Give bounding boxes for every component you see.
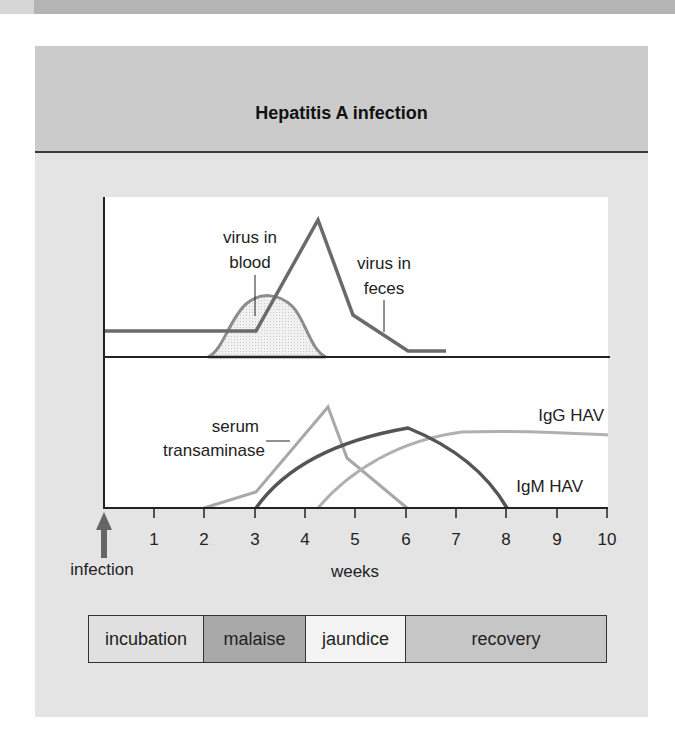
- svg-text:6: 6: [401, 530, 410, 549]
- x-axis-label: weeks: [330, 562, 379, 581]
- svg-text:8: 8: [501, 530, 510, 549]
- svg-text:1: 1: [149, 530, 158, 549]
- virus-feces-label-2: feces: [364, 279, 405, 298]
- phase-jaundice: jaundice: [306, 616, 406, 662]
- phase-incubation: incubation: [89, 616, 204, 662]
- igm-label: IgM HAV: [516, 477, 583, 496]
- igg-label: IgG HAV: [538, 406, 604, 425]
- svg-text:2: 2: [199, 530, 208, 549]
- infection-label: infection: [70, 560, 133, 579]
- phase-recovery: recovery: [406, 616, 606, 662]
- phase-malaise: malaise: [204, 616, 306, 662]
- svg-text:7: 7: [451, 530, 460, 549]
- phase-bar: incubation malaise jaundice recovery: [88, 615, 607, 663]
- virus-blood-label-1: virus in: [223, 228, 277, 247]
- svg-text:5: 5: [350, 530, 359, 549]
- svg-text:4: 4: [300, 530, 309, 549]
- svg-text:10: 10: [598, 530, 617, 549]
- x-ticks: [154, 508, 607, 518]
- transaminase-label-2: transaminase: [163, 441, 265, 460]
- transaminase-label-1: serum: [212, 417, 259, 436]
- virus-feces-label-1: virus in: [357, 254, 411, 273]
- svg-text:3: 3: [250, 530, 259, 549]
- svg-text:9: 9: [552, 530, 561, 549]
- plot-area: [104, 197, 608, 508]
- infection-arrow-icon: [96, 512, 112, 558]
- virus-blood-label-2: blood: [229, 253, 271, 272]
- x-tick-labels: 1 2 3 4 5 6 7 8 9 10: [149, 530, 616, 549]
